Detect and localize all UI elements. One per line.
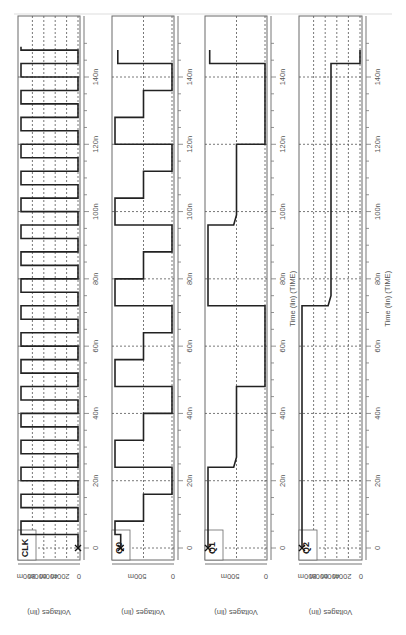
x-tick-label: 80n	[373, 273, 382, 286]
x-tick-label: 40n	[185, 407, 194, 420]
x-tick-label: 0	[373, 546, 382, 550]
plot-frame	[18, 16, 80, 560]
x-tick-label: 0	[185, 546, 194, 550]
waveform-chart: 800m600m400m200m0020n40n60n80n100n120n14…	[0, 0, 406, 635]
x-tick-label: 20n	[185, 474, 194, 487]
y-axis-title: Voltages (lin)	[214, 608, 258, 617]
x-tick-label: 100n	[91, 203, 100, 220]
y-axis-title: Voltages (lin)	[121, 608, 165, 617]
x-tick-label: 20n	[91, 474, 100, 487]
x-tick-label: 0	[278, 546, 287, 550]
y-tick-label: 0	[264, 572, 268, 581]
x-tick-label: 140n	[185, 69, 194, 86]
x-tick-label: 40n	[278, 407, 287, 420]
x-tick-label: 20n	[373, 474, 382, 487]
x-axis-title: Time (lin) (TIME)	[288, 270, 297, 326]
x-tick-label: 120n	[278, 136, 287, 153]
y-axis-title: Voltages (lin)	[27, 608, 71, 617]
x-axis-title: Time (lin) (TIME)	[383, 270, 392, 326]
x-tick-label: 140n	[373, 69, 382, 86]
plot-frame	[205, 16, 267, 560]
y-tick-label: 0	[171, 572, 175, 581]
y-tick-label: 500m	[221, 572, 240, 581]
x-tick-label: 100n	[373, 203, 382, 220]
panel-q2: 800m600m400m200m0020n40n60n80n100n120n14…	[298, 16, 392, 617]
x-tick-label: 140n	[278, 69, 287, 86]
x-tick-label: 60n	[278, 340, 287, 353]
signal-label: CLK	[20, 538, 30, 557]
x-tick-label: 40n	[373, 407, 382, 420]
panel-clk: 800m600m400m200m0020n40n60n80n100n120n14…	[17, 16, 100, 617]
signal-label: Q0	[114, 542, 124, 554]
x-tick-label: 120n	[91, 136, 100, 153]
x-tick-label: 120n	[185, 136, 194, 153]
y-tick-label: 0	[77, 572, 81, 581]
x-tick-label: 100n	[278, 203, 287, 220]
x-tick-label: 60n	[185, 340, 194, 353]
x-tick-label: 80n	[91, 273, 100, 286]
x-tick-label: 60n	[91, 340, 100, 353]
x-tick-label: 80n	[185, 273, 194, 286]
y-tick-label: 200m	[51, 572, 70, 581]
x-tick-label: 20n	[278, 474, 287, 487]
panel-q1: 500m0020n40n60n80n100n120n140nTime (lin)…	[205, 16, 297, 617]
waveform-plot: 800m600m400m200m0020n40n60n80n100n120n14…	[0, 0, 406, 635]
x-tick-label: 100n	[185, 203, 194, 220]
y-tick-label: 0	[359, 572, 363, 581]
y-axis-title: Voltages (lin)	[308, 608, 352, 617]
x-tick-label: 0	[91, 546, 100, 550]
x-tick-label: 140n	[91, 69, 100, 86]
x-tick-label: 120n	[373, 136, 382, 153]
y-tick-label: 200m	[333, 572, 352, 581]
x-tick-label: 80n	[278, 273, 287, 286]
y-tick-label: 500m	[128, 572, 147, 581]
x-tick-label: 40n	[91, 407, 100, 420]
panel-q0: 500m0020n40n60n80n100n120n140nVoltages (…	[112, 16, 194, 617]
x-tick-label: 60n	[373, 340, 382, 353]
